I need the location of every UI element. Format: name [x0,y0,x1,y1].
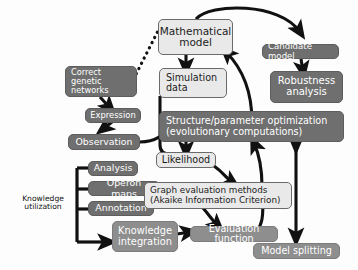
node-structure-line2: (evolutionary computations) [166,126,302,137]
node-observation[interactable]: Observation [68,134,140,150]
node-knowledge-integration-text: Knowledge integration [118,226,172,247]
node-simulation-line2: data [166,82,188,93]
edge-expression-to-observation [103,122,112,129]
node-graph-evaluation-methods-text: Graph evaluation methods (Akaike Informa… [150,186,280,205]
label-knowledge-utilization: Knowledge utilization [13,190,73,216]
node-analysis[interactable]: Analysis [88,161,138,176]
node-model-splitting-text: Model splitting [261,246,332,256]
node-graph-evaluation-methods[interactable]: Graph evaluation methods (Akaike Informa… [144,182,292,209]
node-correct-genetic-networks-text: Correct genetic networks [71,68,131,95]
node-simulation-data-text: Simulation data [166,73,217,94]
node-mathematical-model-text: Mathematical model [160,26,232,49]
node-knowledge-integration[interactable]: Knowledge integration [112,221,178,252]
node-correct-genetic-line1: Correct genetic [71,67,101,86]
node-expression[interactable]: Expression [85,108,141,123]
node-likelihood[interactable]: Likelihood [156,152,216,168]
node-correct-genetic-networks[interactable]: Correct genetic networks [65,66,137,97]
label-knowledge-utilization-line2: utilization [24,202,61,211]
node-graph-eval-line1: Graph evaluation methods [150,185,267,195]
node-mathematical-model-line2: model [179,36,212,48]
label-knowledge-utilization-text: Knowledge utilization [22,195,64,211]
edge-genetic-to-expression [100,97,110,108]
node-robustness-line2: analysis [286,86,327,97]
node-robustness-analysis-text: Robustness analysis [278,76,335,98]
node-structure-parameter-optimization-text: Structure/parameter optimization (evolut… [166,116,327,137]
node-graph-eval-line2: (Akaike Information Criterion) [150,195,280,205]
node-observation-text: Observation [75,137,132,147]
node-structure-parameter-optimization[interactable]: Structure/parameter optimization (evolut… [159,111,344,142]
node-analysis-text: Analysis [94,163,133,173]
edge-likelihood-to-grapheval [214,166,233,183]
node-simulation-line1: Simulation [166,72,217,83]
node-mathematical-model-line1: Mathematical [160,25,232,37]
node-annotation-text: Annotation [95,203,146,213]
node-evaluation-function-text: Evaluation function [196,224,272,245]
node-evaluation-function[interactable]: Evaluation function [190,226,278,242]
edge-knowledge-to-evalfunction [177,232,190,234]
node-structure-line1: Structure/parameter optimization [166,115,327,126]
node-knowledge-integration-line2: integration [118,236,172,247]
edge-candidate-to-robustness [301,59,303,71]
node-simulation-data[interactable]: Simulation data [159,68,227,98]
node-knowledge-integration-line1: Knowledge [118,225,172,236]
node-robustness-line1: Robustness [278,75,335,86]
node-robustness-analysis[interactable]: Robustness analysis [270,71,343,103]
node-model-splitting[interactable]: Model splitting [253,243,340,259]
node-correct-genetic-line2: networks [71,85,109,95]
node-candidate-model-text: Candidate model [268,42,333,61]
flowchart-diagram: Mathematical model Candidate model Robus… [0,0,358,270]
node-candidate-model[interactable]: Candidate model [262,44,339,59]
node-expression-text: Expression [90,111,135,120]
node-mathematical-model[interactable]: Mathematical model [158,19,233,55]
node-likelihood-text: Likelihood [162,155,210,165]
